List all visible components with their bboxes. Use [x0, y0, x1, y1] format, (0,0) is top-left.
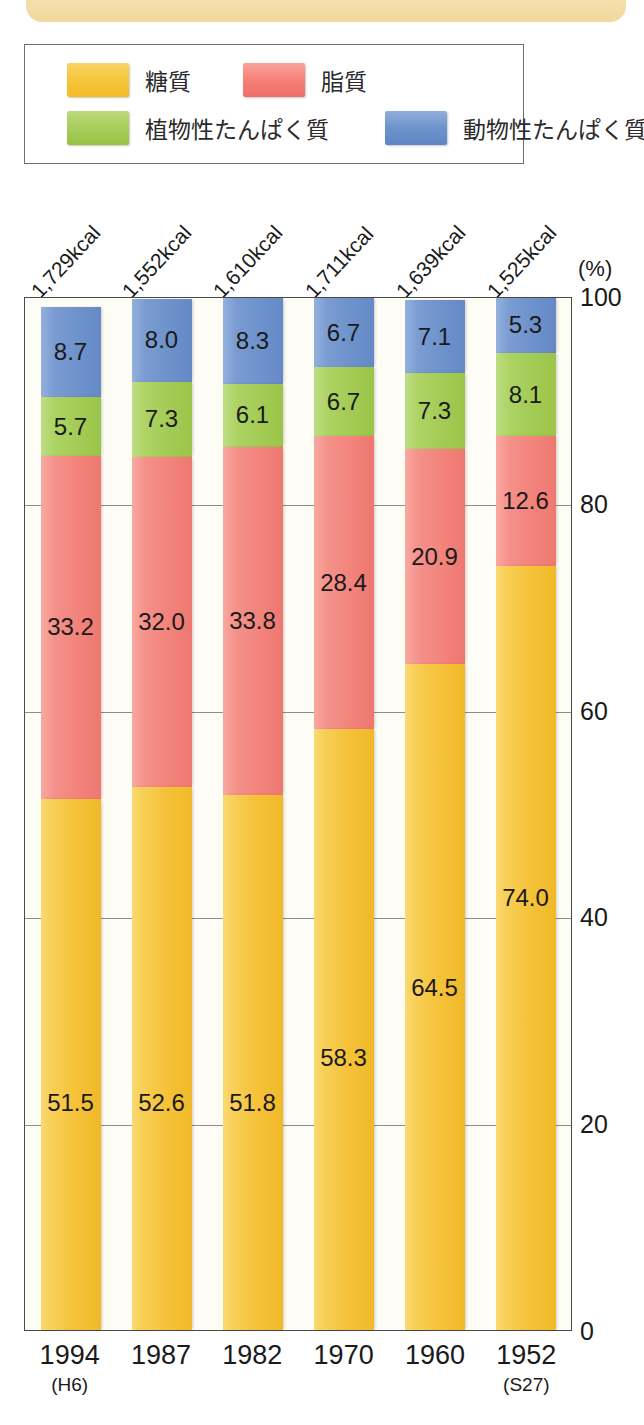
bar-value-label: 74.0 — [502, 886, 549, 910]
bar-value-label: 8.7 — [54, 340, 87, 364]
legend-label-carb: 糖質 — [145, 63, 191, 97]
x-axis-era — [116, 1374, 206, 1396]
legend-label-fat: 脂質 — [321, 63, 367, 97]
kcal-annotation: 1,639kcal — [391, 221, 470, 303]
x-axis-era: (S27) — [481, 1374, 571, 1396]
x-axis-label-group: 1982 — [207, 1340, 297, 1396]
y-axis-tick: 60 — [580, 696, 608, 725]
bar-column[interactable]: 8.36.133.851.8 — [223, 298, 283, 1330]
x-axis-year: 1987 — [116, 1340, 206, 1371]
x-axis-year: 1952 — [481, 1340, 571, 1371]
x-axis-label-group: 1952(S27) — [481, 1340, 571, 1396]
bar-value-label: 64.5 — [411, 976, 458, 1000]
bar-value-label: 6.1 — [236, 403, 269, 427]
chart-legend: 糖質 脂質 植物性たんぱく質 動物性たんぱく質 — [24, 44, 524, 164]
bar-value-label: 33.2 — [47, 615, 94, 639]
x-axis-era — [299, 1374, 389, 1396]
bar-value-label: 8.0 — [145, 328, 178, 352]
bar-value-label: 28.4 — [320, 571, 367, 595]
y-axis-tick: 40 — [580, 903, 608, 932]
legend-row-2: 植物性たんぱく質 動物性たんぱく質 — [25, 104, 523, 152]
legend-swatch-fat — [243, 63, 305, 97]
bar-column[interactable]: 5.38.112.674.0 — [496, 298, 556, 1330]
x-axis-era — [207, 1374, 297, 1396]
x-axis-year: 1960 — [390, 1340, 480, 1371]
bar-segment-fat[interactable]: 20.9 — [405, 449, 465, 665]
x-axis-year: 1994 — [25, 1340, 115, 1371]
bar-segment-fat[interactable]: 12.6 — [496, 436, 556, 566]
legend-label-animal: 動物性たんぱく質 — [463, 111, 644, 145]
legend-item-fat: 脂質 — [243, 63, 367, 97]
decorative-banner — [26, 0, 626, 22]
bar-value-label: 7.3 — [418, 399, 451, 423]
bar-segment-fat[interactable]: 33.2 — [41, 456, 101, 799]
bar-segment-carb[interactable]: 52.6 — [132, 787, 192, 1330]
plot-area: 8.75.733.251.58.07.332.052.68.36.133.851… — [24, 297, 572, 1331]
bar-segment-animal[interactable]: 6.7 — [314, 298, 374, 367]
bar-column[interactable]: 7.17.320.964.5 — [405, 298, 465, 1330]
bar-segment-plant[interactable]: 7.3 — [405, 373, 465, 448]
bar-segment-plant[interactable]: 5.7 — [41, 397, 101, 456]
bar-value-label: 6.7 — [327, 390, 360, 414]
bar-segment-fat[interactable]: 33.8 — [223, 447, 283, 796]
bar-segment-plant[interactable]: 7.3 — [132, 382, 192, 457]
bar-segment-plant[interactable]: 6.1 — [223, 384, 283, 447]
x-axis-year: 1982 — [207, 1340, 297, 1371]
bar-value-label: 51.8 — [229, 1091, 276, 1115]
legend-item-animal: 動物性たんぱく質 — [385, 111, 644, 145]
bar-segment-animal[interactable]: 7.1 — [405, 300, 465, 373]
bar-segment-carb[interactable]: 51.5 — [41, 799, 101, 1330]
y-axis-tick: 20 — [580, 1110, 608, 1139]
kcal-annotation: 1,552kcal — [117, 221, 196, 303]
bar-segment-carb[interactable]: 74.0 — [496, 566, 556, 1330]
bar-value-label: 20.9 — [411, 545, 458, 569]
y-axis-tick: 0 — [580, 1317, 594, 1346]
bar-segment-animal[interactable]: 8.3 — [223, 298, 283, 384]
kcal-annotation: 1,610kcal — [209, 221, 288, 303]
bar-value-label: 7.1 — [418, 325, 451, 349]
chart-page: 糖質 脂質 植物性たんぱく質 動物性たんぱく質 1,729kcal1,552kc… — [0, 0, 644, 1425]
bar-value-label: 7.3 — [145, 407, 178, 431]
legend-swatch-animal — [385, 111, 447, 145]
bar-value-label: 6.7 — [327, 321, 360, 345]
legend-swatch-plant — [67, 111, 129, 145]
legend-item-carb: 糖質 — [67, 63, 191, 97]
bar-value-label: 33.8 — [229, 609, 276, 633]
bar-segment-animal[interactable]: 8.7 — [41, 307, 101, 397]
legend-row-1: 糖質 脂質 — [25, 56, 523, 104]
bar-segment-animal[interactable]: 8.0 — [132, 299, 192, 382]
bar-segment-carb[interactable]: 64.5 — [405, 664, 465, 1330]
bar-segment-plant[interactable]: 8.1 — [496, 353, 556, 437]
legend-label-plant: 植物性たんぱく質 — [145, 111, 329, 145]
bar-value-label: 5.7 — [54, 415, 87, 439]
bar-value-label: 5.3 — [509, 313, 542, 337]
bar-group: 8.75.733.251.58.07.332.052.68.36.133.851… — [25, 298, 571, 1330]
kcal-annotation: 1,711kcal — [300, 222, 378, 303]
x-axis-year: 1970 — [299, 1340, 389, 1371]
bar-segment-carb[interactable]: 58.3 — [314, 729, 374, 1330]
bar-column[interactable]: 6.76.728.458.3 — [314, 298, 374, 1330]
x-axis-era — [390, 1374, 480, 1396]
x-axis-label-group: 1960 — [390, 1340, 480, 1396]
bar-value-label: 8.1 — [509, 383, 542, 407]
legend-swatch-carb — [67, 63, 129, 97]
bar-segment-carb[interactable]: 51.8 — [223, 795, 283, 1330]
bar-column[interactable]: 8.75.733.251.5 — [41, 298, 101, 1330]
x-axis: 1994(H6)19871982197019601952(S27) — [24, 1340, 572, 1396]
bar-value-label: 58.3 — [320, 1046, 367, 1070]
bar-segment-animal[interactable]: 5.3 — [496, 298, 556, 353]
x-axis-label-group: 1987 — [116, 1340, 206, 1396]
legend-item-plant: 植物性たんぱく質 — [67, 111, 329, 145]
bar-segment-plant[interactable]: 6.7 — [314, 367, 374, 436]
bar-value-label: 8.3 — [236, 329, 269, 353]
bar-segment-fat[interactable]: 32.0 — [132, 457, 192, 787]
y-axis-tick: 80 — [580, 489, 608, 518]
bar-column[interactable]: 8.07.332.052.6 — [132, 298, 192, 1330]
y-axis-unit: (%) — [578, 256, 612, 282]
y-axis-tick: 100 — [580, 283, 622, 312]
kcal-annotation: 1,729kcal — [26, 221, 105, 303]
bar-value-label: 51.5 — [47, 1091, 94, 1115]
bar-segment-fat[interactable]: 28.4 — [314, 436, 374, 729]
bar-value-label: 12.6 — [502, 489, 549, 513]
bar-value-label: 52.6 — [138, 1091, 185, 1115]
